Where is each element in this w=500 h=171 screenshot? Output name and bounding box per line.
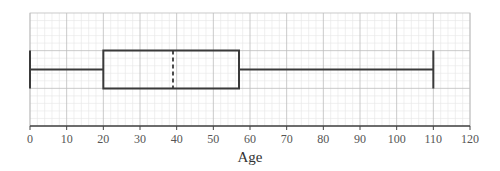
x-tick-label: 60 bbox=[244, 132, 256, 146]
x-tick-label: 80 bbox=[317, 132, 329, 146]
x-tick-label: 40 bbox=[171, 132, 183, 146]
x-tick-label: 0 bbox=[27, 132, 33, 146]
x-axis: 0102030405060708090100110120 bbox=[27, 126, 479, 146]
x-tick-label: 10 bbox=[61, 132, 73, 146]
x-tick-label: 120 bbox=[461, 132, 479, 146]
x-tick-label: 30 bbox=[134, 132, 146, 146]
x-tick-label: 50 bbox=[207, 132, 219, 146]
x-tick-label: 20 bbox=[97, 132, 109, 146]
x-tick-label: 70 bbox=[281, 132, 293, 146]
x-axis-title: Age bbox=[238, 149, 263, 165]
x-tick-label: 110 bbox=[425, 132, 443, 146]
x-tick-label: 90 bbox=[354, 132, 366, 146]
box-plot bbox=[30, 51, 433, 89]
x-tick-label: 100 bbox=[388, 132, 406, 146]
box-plot-chart: 0102030405060708090100110120 Age bbox=[0, 0, 500, 171]
iqr-box bbox=[103, 51, 239, 89]
